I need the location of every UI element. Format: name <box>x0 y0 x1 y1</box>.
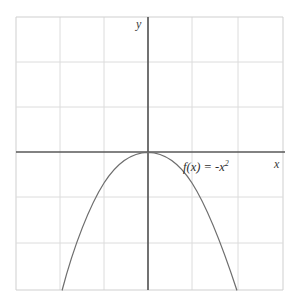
function-exponent: 2 <box>225 159 229 168</box>
function-equation-label: f(x) = -x2 <box>183 160 229 174</box>
y-axis-label: y <box>136 18 141 30</box>
function-equation-text: f(x) = -x <box>183 160 225 174</box>
x-axis-label: x <box>274 158 279 170</box>
coordinate-plane <box>0 0 295 308</box>
graph-figure: y x f(x) = -x2 <box>0 0 295 308</box>
